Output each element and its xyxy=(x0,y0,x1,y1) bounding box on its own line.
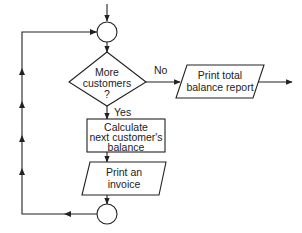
yes-edge-label: Yes xyxy=(114,106,131,118)
end-connector xyxy=(97,204,117,224)
no-edge-label: No xyxy=(154,64,168,76)
calculate-label-line3: balance xyxy=(108,141,145,153)
loop-arrow-up-icon xyxy=(19,68,25,75)
report-label-line2: balance report xyxy=(186,81,253,93)
loop-arrow-up-icon xyxy=(19,168,25,175)
decision-label-line3: ? xyxy=(104,88,110,100)
report-label-line1: Print total xyxy=(198,69,242,81)
loop-arrow-up-icon xyxy=(19,101,25,108)
invoice-label-line2: invoice xyxy=(108,178,141,190)
start-connector xyxy=(97,22,117,42)
loop-arrow-right-icon xyxy=(90,29,97,35)
loop-arrow-up-icon xyxy=(19,135,25,142)
loop-arrow-left-icon xyxy=(64,211,71,217)
flowchart-diagram: More customers ? Print total balance rep… xyxy=(0,0,302,233)
invoice-label-line1: Print an xyxy=(106,166,142,178)
